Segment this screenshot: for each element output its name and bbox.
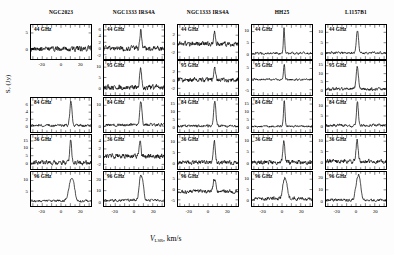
spectrum-panel-NGC1333IRS4A-84GHz: 84 GHz [177,97,239,133]
y-tick-label: -5 [158,198,175,203]
y-tick-label: 5 [11,153,28,158]
y-tick-label: 4 [84,33,101,38]
panel-frequency-label: 96 GHz [107,173,124,179]
y-tick-label: 10 [306,187,323,192]
y-tick-label: 0 [232,198,249,203]
y-tick-label: 0 [232,52,249,57]
y-tick-label: 5 [232,149,249,154]
y-tick-label: 10 [11,145,28,150]
y-tick-label: 0 [232,125,249,130]
y-tick-label: 4 [84,138,101,143]
y-tick-label: 5 [306,40,323,45]
x-tick-label: 0 [52,62,70,67]
y-axis-label: Sν (Jy) [4,62,12,106]
y-tick-label: 0 [84,46,101,51]
y-tick-label: 0 [84,124,101,129]
y-tick-label: 2 [158,32,175,37]
y-tick-label: 0 [306,199,323,204]
panel-frequency-label: 36 GHz [255,136,272,142]
y-tick-label: 5 [158,150,175,155]
y-tick-label: 10 [306,29,323,34]
spectrum-panel-NGC1333IRS4A-96GHz: 96 GHz [177,171,239,207]
y-tick-label: 0 [306,160,323,165]
y-tick-label: 20 [84,177,101,182]
column-title-4: L1157B1 [309,9,394,15]
y-tick-label: 0 [11,124,28,129]
y-tick-label: 6 [84,27,101,32]
x-tick-label: 0 [273,209,291,214]
spectrum-panel-HH25-95GHz: 95 GHz [251,60,313,96]
y-tick-label: 15 [11,138,28,143]
y-tick-label: 0 [11,47,28,52]
panel-frequency-label: 44 GHz [107,26,124,32]
spectrum-panel-NGC1333IRS4A-96GHz: 96 GHz [103,171,165,207]
spectrum-panel-NGC1333IRS4A-36GHz: 36 GHz [177,134,239,170]
x-axis-unit: , km/s [163,234,181,243]
x-tick-label: 20 [218,209,236,214]
y-tick-label: 0 [158,187,175,192]
spectrum-panel-NGC2023-36GHz: 36 GHz [30,134,92,170]
y-tick-label: 15 [158,101,175,106]
y-tick-label: 5 [306,113,323,118]
spectrum-panel-L1157B1-36GHz: 36 GHz [325,134,387,170]
x-tick-label: 0 [52,209,70,214]
y-tick-label: 5 [84,113,101,118]
y-tick-label: -5 [232,88,249,93]
y-tick-label: 10 [232,138,249,143]
x-tick-label: 0 [199,209,217,214]
y-tick-label: 10 [11,177,28,182]
y-tick-label: 5 [306,79,323,84]
spectrum-panel-HH25-44GHz: 44 GHz [251,24,313,60]
y-tick-label: 2 [84,40,101,45]
x-tick-label: -20 [328,209,346,214]
y-tick-label: 0 [84,200,101,205]
y-tick-label: 5 [232,65,249,70]
y-tick-label: 0 [84,86,101,91]
y-tick-label: 2 [11,117,28,122]
y-tick-label: 6 [11,102,28,107]
y-tick-label: 0 [84,154,101,159]
y-tick-label: 10 [232,109,249,114]
y-tick-label: 5 [11,30,28,35]
x-tick-label: -20 [180,209,198,214]
panel-frequency-label: 95 GHz [255,62,272,68]
panel-frequency-label: 84 GHz [329,99,346,105]
y-tick-label: 0 [158,125,175,130]
panel-frequency-label: 44 GHz [181,26,198,32]
spectrum-panel-HH25-84GHz: 84 GHz [251,97,313,133]
panel-frequency-label: 84 GHz [34,99,51,105]
panel-frequency-label: 36 GHz [34,136,51,142]
y-tick-label: 0 [306,124,323,129]
y-tick-label: 15 [232,101,249,106]
panel-frequency-label: 36 GHz [107,136,124,142]
x-tick-label: 20 [292,209,310,214]
panel-frequency-label: 84 GHz [181,99,198,105]
y-axis-subscript: ν [7,87,12,89]
x-tick-label: 20 [71,209,89,214]
y-tick-label: 10 [306,71,323,76]
y-tick-label: 15 [306,62,323,67]
y-tick-label: 0 [158,41,175,46]
x-tick-label: -20 [254,209,272,214]
y-tick-label: 10 [84,64,101,69]
y-tick-label: 10 [84,102,101,107]
panel-frequency-label: 96 GHz [329,173,346,179]
panel-frequency-label: 36 GHz [329,136,346,142]
y-tick-label: 0 [158,78,175,83]
spectrum-panel-NGC2023-84GHz: 84 GHz [30,97,92,133]
x-axis-label: VLSR, km/s [150,234,181,243]
y-tick-label: 5 [11,189,28,194]
x-tick-label: 20 [144,209,162,214]
panel-frequency-label: 95 GHz [181,62,198,68]
y-tick-label: 5 [158,176,175,181]
x-tick-label: -20 [33,62,51,67]
panel-frequency-label: 36 GHz [181,136,198,142]
spectrum-panel-L1157B1-44GHz: 44 GHz [325,24,387,60]
y-tick-label: 10 [306,138,323,143]
y-tick-label: 0 [11,161,28,166]
y-tick-label: 5 [158,117,175,122]
y-tick-label: 0 [232,77,249,82]
y-tick-label: 4 [11,109,28,114]
y-tick-label: -2 [84,162,101,167]
y-tick-label: 2 [84,146,101,151]
